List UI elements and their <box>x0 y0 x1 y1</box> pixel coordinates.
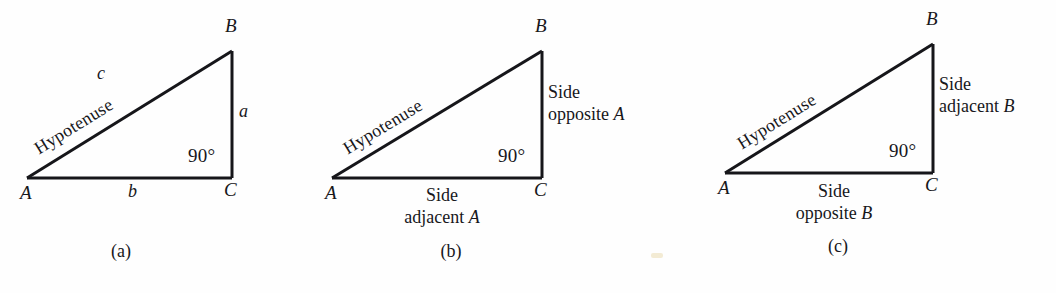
triangle-b-vertical-side-variable: A <box>614 104 625 124</box>
triangle-c-right-angle-label: 90° <box>889 141 916 162</box>
triangle-a-hypotenuse-variable-c: c <box>97 64 105 83</box>
triangle-panel-c: A B C Hypotenuse 90° Side adjacent B Sid… <box>690 0 1056 293</box>
triangle-c-vertical-side-line2: adjacent <box>939 96 999 116</box>
figure-root: A B C c a b Hypotenuse 90° (a) A B C Hyp… <box>0 0 1056 293</box>
triangle-c-vertical-side-line2-wrap: adjacent B <box>939 96 1056 118</box>
triangle-c-base-side-line1: Side <box>754 181 914 203</box>
triangle-c-base-side-variable: B <box>861 203 872 223</box>
triangle-b-vertex-label-A: A <box>325 183 337 204</box>
triangle-a-vertex-label-C: C <box>224 180 237 201</box>
triangle-panel-a: A B C c a b Hypotenuse 90° (a) <box>0 0 300 293</box>
triangle-b-vertex-label-C: C <box>534 180 547 201</box>
triangle-c-base-side-line2: opposite <box>796 203 857 223</box>
triangle-c-vertex-label-B: B <box>926 9 938 30</box>
triangle-a-vertex-label-A: A <box>20 183 32 204</box>
triangle-b-base-side-label: Side adjacent A <box>362 185 522 229</box>
triangle-a-base-side-variable-b: b <box>128 182 137 201</box>
triangle-c-caption: (c) <box>817 237 859 256</box>
triangle-c-vertical-side-variable: B <box>1003 96 1014 116</box>
triangle-c-base-side-label: Side opposite B <box>754 181 914 225</box>
scan-smudge <box>651 253 663 258</box>
triangle-c-vertical-side-line1: Side <box>939 74 1056 96</box>
triangle-b-base-side-line1: Side <box>362 185 522 207</box>
triangle-b-vertical-side-label: Side opposite A <box>548 82 678 126</box>
triangle-panel-b: A B C Hypotenuse 90° Side opposite A Sid… <box>300 0 690 293</box>
triangle-b-base-side-variable: A <box>469 207 480 227</box>
triangle-b-right-angle-label: 90° <box>498 146 525 167</box>
triangle-c-vertex-label-C: C <box>925 175 938 196</box>
triangle-b-base-side-line2: adjacent <box>404 207 464 227</box>
triangle-b-vertex-label-B: B <box>535 16 547 37</box>
triangle-b-vertical-side-line1: Side <box>548 82 678 104</box>
triangle-b-base-side-line2-wrap: adjacent A <box>362 207 522 229</box>
triangle-c-base-side-line2-wrap: opposite B <box>754 203 914 225</box>
triangle-b-vertical-side-line2: opposite <box>548 104 609 124</box>
triangle-a-right-angle-label: 90° <box>188 146 215 167</box>
triangle-a-caption: (a) <box>100 242 142 261</box>
triangle-a-vertex-label-B: B <box>225 16 237 37</box>
triangle-b-caption: (b) <box>430 242 472 261</box>
triangle-b-vertical-side-line2-wrap: opposite A <box>548 104 678 126</box>
triangle-c-vertical-side-label: Side adjacent B <box>939 74 1056 118</box>
triangle-c-vertex-label-A: A <box>718 178 730 199</box>
triangle-a-vertical-side-variable-a: a <box>239 102 248 121</box>
